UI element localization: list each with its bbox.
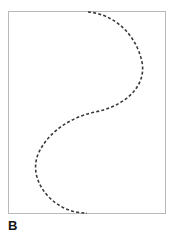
dashed-s-curve-path <box>36 12 143 213</box>
dashed-s-curve-chart <box>0 0 176 235</box>
figure-panel: B <box>0 0 176 235</box>
panel-label: B <box>8 219 17 233</box>
